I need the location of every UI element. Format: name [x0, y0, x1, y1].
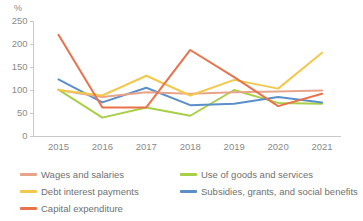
legend-item[interactable]: Capital expenditure [20, 200, 180, 217]
x-axis: 2015201620172018201920202021 [34, 137, 342, 153]
x-tick-labels: 2015201620172018201920202021 [48, 141, 333, 152]
series-line [58, 53, 322, 96]
x-tick-label: 2020 [268, 141, 289, 152]
x-tick-label: 2021 [311, 141, 332, 152]
y-tick-label: 50 [17, 107, 28, 118]
legend-swatch-icon [180, 173, 197, 176]
y-tick-label: 200 [12, 38, 28, 49]
y-tick-labels: 050100150200250 [12, 15, 28, 141]
legend-swatch-icon [20, 173, 37, 176]
legend-item-label: Subsidies, grants, and social benefits [201, 186, 358, 197]
legend-item[interactable]: Wages and salaries [20, 166, 180, 183]
legend-item-label: Use of goods and services [201, 169, 313, 180]
legend-item-label: Debt interest payments [41, 186, 139, 197]
y-tick-label: 250 [12, 15, 28, 26]
y-axis: 050100150200250 [12, 15, 34, 141]
legend-swatch-icon [20, 207, 37, 210]
legend-item[interactable]: Debt interest payments [20, 183, 180, 200]
legend-item-label: Wages and salaries [41, 169, 124, 180]
legend-column-left: Wages and salariesDebt interest payments… [20, 166, 180, 217]
y-tick-marks [30, 22, 34, 137]
legend-column-right: Use of goods and servicesSubsidies, gran… [180, 166, 363, 200]
legend-swatch-icon [20, 190, 37, 193]
legend-swatch-icon [180, 190, 197, 193]
legend-item-label: Capital expenditure [41, 203, 123, 214]
series-lines [58, 35, 322, 118]
chart-plot-area: 050100150200250 201520162017201820192020… [0, 0, 350, 160]
legend-item[interactable]: Subsidies, grants, and social benefits [180, 183, 363, 200]
chart-legend: Wages and salariesDebt interest payments… [20, 166, 350, 221]
x-tick-label: 2016 [92, 141, 113, 152]
x-tick-label: 2015 [48, 141, 69, 152]
x-tick-label: 2019 [224, 141, 245, 152]
legend-item[interactable]: Use of goods and services [180, 166, 363, 183]
x-tick-label: 2018 [180, 141, 201, 152]
x-tick-label: 2017 [136, 141, 157, 152]
y-tick-label: 150 [12, 61, 28, 72]
y-tick-label: 100 [12, 84, 28, 95]
y-tick-label: 0 [22, 130, 27, 141]
